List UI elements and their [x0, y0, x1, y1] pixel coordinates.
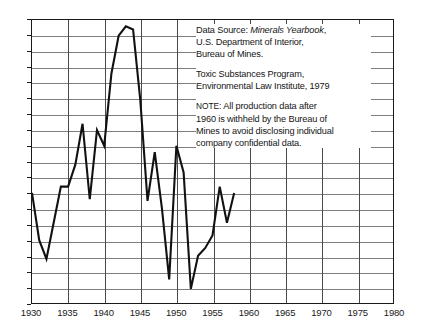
y-tick-mark-48	[27, 19, 31, 20]
y-tick-mark-40	[27, 82, 31, 83]
toxic-line1: Toxic Substances Program,	[196, 69, 304, 79]
y-tick-mark-26	[27, 193, 31, 194]
y-tick-mark-20	[27, 241, 31, 242]
annotation-data-source: Data Source: Minerals Yearbook, U.S. Dep…	[196, 24, 371, 60]
chart-figure: 48464442403836343230282624222018161412 1…	[0, 0, 424, 328]
note-line4: company confidential data.	[196, 138, 301, 148]
note-label: NOTE:	[196, 101, 221, 111]
y-tick-mark-36	[27, 114, 31, 115]
note-line1: All production data after	[223, 101, 316, 111]
y-tick-mark-18	[27, 257, 31, 258]
annotation-toxic-substances: Toxic Substances Program, Environmental …	[196, 68, 371, 92]
y-tick-mark-30	[27, 162, 31, 163]
y-tick-mark-38	[27, 98, 31, 99]
y-tick-mark-24	[27, 209, 31, 210]
annotation-note: NOTE: All production data after 1960 is …	[196, 100, 371, 148]
toxic-line2: Environmental Law Institute, 1979	[196, 81, 329, 91]
data-source-line2: U.S. Department of Interior,	[196, 37, 304, 47]
x-tick-label-1945: 1945	[120, 307, 160, 318]
y-tick-mark-22	[27, 225, 31, 226]
data-source-italic-title: Minerals Yearbook	[250, 25, 323, 35]
x-tick-label-1955: 1955	[193, 307, 233, 318]
x-tick-label-1965: 1965	[265, 307, 305, 318]
note-line3: Mines to avoid disclosing individual	[196, 126, 334, 136]
x-tick-label-1960: 1960	[229, 307, 269, 318]
y-tick-mark-34	[27, 130, 31, 131]
y-tick-mark-32	[27, 146, 31, 147]
annotation-panel: Data Source: Minerals Yearbook, U.S. Dep…	[196, 24, 371, 148]
x-tick-label-1970: 1970	[301, 307, 341, 318]
y-tick-mark-12	[27, 304, 31, 305]
y-tick-mark-42	[27, 67, 31, 68]
data-source-comma: ,	[324, 25, 326, 35]
note-line2: 1960 is withheld by the Bureau of	[196, 114, 327, 124]
y-tick-mark-28	[27, 177, 31, 178]
x-tick-label-1975: 1975	[338, 307, 378, 318]
x-tick-label-1950: 1950	[156, 307, 196, 318]
y-tick-mark-44	[27, 51, 31, 52]
data-source-lead: Data Source:	[196, 25, 248, 35]
y-tick-mark-14	[27, 288, 31, 289]
x-tick-label-1930: 1930	[11, 307, 51, 318]
y-tick-mark-46	[27, 35, 31, 36]
data-source-line3: Bureau of Mines.	[196, 49, 263, 59]
x-tick-label-1935: 1935	[47, 307, 87, 318]
x-tick-label-1940: 1940	[84, 307, 124, 318]
y-tick-mark-16	[27, 272, 31, 273]
x-tick-label-1980: 1980	[374, 307, 414, 318]
